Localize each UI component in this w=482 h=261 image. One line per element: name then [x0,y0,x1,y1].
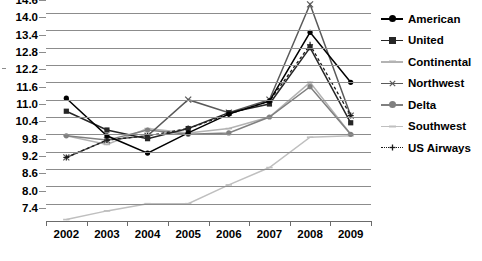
gridline [46,117,371,118]
chart-legend: AmericanUnitedContinentalNorthwestDeltaS… [381,8,480,159]
data-point-marker [104,127,109,132]
legend-marker-plus-icon [389,144,396,151]
gridline [46,100,371,101]
data-point-marker [348,120,353,125]
y-axis-tick-mark [39,52,46,53]
data-point-marker [226,112,231,117]
y-axis-tick-label: 13.4 [16,30,38,41]
y-axis-tick-mark [39,87,46,88]
legend-item-american[interactable]: American [381,8,480,30]
x-axis-tick-mark [46,221,47,226]
gridline [46,65,371,66]
y-axis-tick-mark [39,156,46,157]
y-axis-tick-label: 12.8 [16,47,38,58]
x-axis-tick-label: 2003 [85,228,129,241]
x-axis-tick-label: 2008 [288,228,332,241]
series-southwest [63,136,354,220]
y-axis-tick-label: 11.0 [16,99,38,110]
gridline [46,82,371,83]
y-axis-tick-label: 9.2 [22,151,38,162]
y-axis-tick-label: 14.6 [16,0,38,6]
legend-marker-circle-icon [389,101,396,108]
y-axis-tick-label: 14.0 [16,12,38,23]
legend-item-southwest[interactable]: Southwest [381,116,480,138]
y-axis-tick-mark [39,191,46,192]
data-point-marker [64,109,69,114]
legend-item-label: Continental [408,56,471,68]
y-axis-tick-label: 11.6 [16,82,38,93]
gridline [46,30,371,31]
legend-key-icon [381,99,403,111]
legend-item-label: Southwest [408,120,466,132]
gridline [46,134,371,135]
gridline [46,48,371,49]
y-axis: 14.614.013.412.812.211.611.010.49.89.28.… [0,0,46,234]
x-axis-tick-mark [371,221,372,226]
x-axis-tick-label: 2006 [207,228,251,241]
legend-item-label: United [408,34,444,46]
series-united [64,45,354,141]
x-axis-tick-label: 2007 [247,228,291,241]
legend-key-icon [381,56,403,68]
legend-item-label: American [408,13,460,25]
y-axis-tick-label: 9.8 [22,134,38,145]
data-point-marker [145,127,150,132]
x-axis-tick-label: 2002 [44,228,88,241]
y-axis-tick-mark [39,173,46,174]
y-axis-tick-label: 12.2 [16,64,38,75]
legend-key-icon [381,142,403,154]
x-axis-tick-mark [249,221,250,226]
legend-marker-dash-icon [389,58,396,65]
x-axis-tick-mark [168,221,169,226]
x-axis-tick-mark [209,221,210,226]
plot-area [46,13,371,221]
legend-marker-circle-icon [389,15,396,22]
x-axis-tick-mark [330,221,331,226]
legend-marker-square-icon [389,37,396,44]
legend-item-delta[interactable]: Delta [381,94,480,116]
x-axis-tick-label: 2004 [126,228,170,241]
series-us-airways [63,42,353,161]
y-axis-tick-label: 10.4 [16,116,38,127]
legend-key-icon [381,77,403,89]
legend-item-label: Northwest [408,77,464,89]
legend-item-us-airways[interactable]: US Airways [381,137,480,159]
data-point-marker [307,84,312,89]
x-axis-tick-label: 2009 [329,228,373,241]
data-point-marker [145,136,150,141]
x-axis-tick-mark [290,221,291,226]
legend-key-icon [381,34,403,46]
gridline [46,169,371,170]
legend-key-icon [381,13,403,25]
y-axis-tick-mark [39,35,46,36]
gridline [46,186,371,187]
x-axis-tick-mark [87,221,88,226]
legend-item-united[interactable]: United [381,30,480,52]
y-axis-tick-mark [39,208,46,209]
gridline [46,13,371,14]
legend-item-northwest[interactable]: Northwest [381,73,480,95]
y-axis-tick-label: 7.4 [22,203,38,214]
line-chart: 14.614.013.412.812.211.611.010.49.89.28.… [0,0,482,261]
y-axis-tick-label: 8.6 [22,168,38,179]
x-axis-tick-label: 2005 [166,228,210,241]
legend-key-icon [381,120,403,132]
y-axis-tick-mark [39,17,46,18]
y-axis-tick-mark [39,104,46,105]
y-axis-tick-label: 8.0 [22,186,38,197]
y-axis-tick-mark [39,69,46,70]
y-axis-tick-mark [39,121,46,122]
legend-item-continental[interactable]: Continental [381,51,480,73]
x-axis-tick-mark [127,221,128,226]
gridline [46,204,371,205]
y-axis-tick-mark [39,0,46,1]
legend-marker-dash-icon [389,123,396,130]
legend-marker-x-icon [389,80,396,87]
gridline [46,152,371,153]
legend-item-label: Delta [408,99,436,111]
legend-item-label: US Airways [408,142,471,154]
y-axis-tick-mark [39,139,46,140]
